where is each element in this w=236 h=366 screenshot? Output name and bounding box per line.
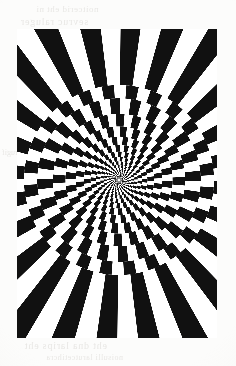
bleed-through-text: noisulli larutcetihcra: [46, 353, 123, 362]
spiral-checkerboard-illusion: [17, 29, 217, 338]
scanned-page: noitcerid eht ni sevruc raluger erugif n…: [0, 0, 236, 366]
illusion-figure-frame: [17, 29, 217, 338]
bleed-through-text: noitcerid eht ni: [36, 4, 98, 14]
bleed-through-text: eht dna larips eht: [24, 340, 107, 351]
bleed-through-text: sevruc raluger: [20, 16, 88, 27]
